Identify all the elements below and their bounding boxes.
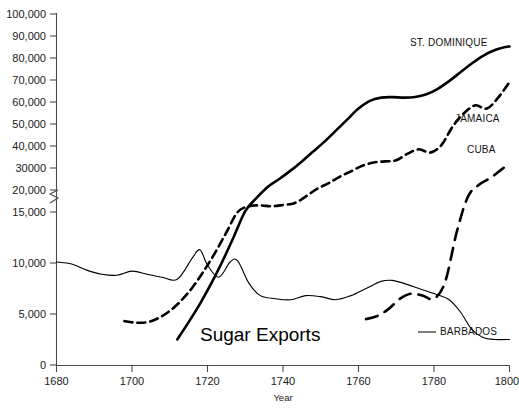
chart-title: Sugar Exports bbox=[200, 324, 320, 345]
y-tick-label-20000: 20,000 bbox=[12, 184, 46, 196]
x-tick-label-1760: 1760 bbox=[346, 375, 370, 387]
x-tick-label-1780: 1780 bbox=[422, 375, 446, 387]
x-axis-title: Year bbox=[273, 392, 292, 403]
series-label-cuba: CUBA bbox=[467, 144, 496, 155]
sugar-exports-chart: 100,000 90,000 80,000 70,000 60,000 50,0… bbox=[0, 0, 519, 409]
chart-page: 100,000 90,000 80,000 70,000 60,000 50,0… bbox=[0, 0, 519, 409]
series-label-barbados: BARBADOS bbox=[440, 326, 497, 337]
y-tick-label-80000: 80,000 bbox=[12, 52, 46, 64]
series-label-jamaica: JAMAICA bbox=[455, 113, 500, 124]
x-tick-label-1720: 1720 bbox=[195, 375, 219, 387]
y-tick-label-100000: 100,000 bbox=[6, 8, 46, 20]
y-tick-label-0: 0 bbox=[40, 359, 46, 371]
y-tick-label-10000: 10,000 bbox=[12, 257, 46, 269]
series-line-jamaica bbox=[124, 82, 509, 323]
x-tick-label-1740: 1740 bbox=[271, 375, 295, 387]
x-tick-label-1700: 1700 bbox=[120, 375, 144, 387]
y-tick-label-90000: 90,000 bbox=[12, 30, 46, 42]
y-tick-label-30000: 30000 bbox=[15, 162, 46, 174]
y-tick-label-15000: 15,000 bbox=[12, 206, 46, 218]
y-tick-label-5000: 5,000 bbox=[18, 308, 46, 320]
series-line-st-dominique bbox=[177, 47, 509, 340]
x-tick-label-1680: 1680 bbox=[44, 375, 68, 387]
series-line-cuba bbox=[366, 164, 509, 320]
y-tick-label-40000: 40,000 bbox=[12, 140, 46, 152]
y-axis bbox=[50, 13, 58, 366]
y-tick-label-60000: 60,000 bbox=[12, 96, 46, 108]
x-tick-label-1800: 1800 bbox=[495, 375, 519, 387]
y-tick-label-70000: 70,000 bbox=[12, 74, 46, 86]
y-tick-label-50000: 50,000 bbox=[12, 118, 46, 130]
x-axis bbox=[57, 366, 511, 373]
series-layer bbox=[57, 47, 510, 340]
series-label-st-dominique: ST. DOMINIQUE bbox=[410, 37, 488, 48]
